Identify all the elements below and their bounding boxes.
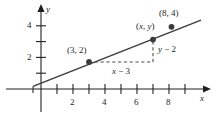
data-point-3-2 bbox=[86, 59, 92, 65]
x-axis-label: x bbox=[200, 94, 204, 103]
data-point-x-y bbox=[150, 37, 156, 43]
y-axis-label: y bbox=[46, 5, 50, 14]
data-point-8-4 bbox=[169, 24, 175, 30]
x-tick-label-8: 8 bbox=[166, 98, 171, 107]
x-tick-label-4: 4 bbox=[102, 98, 107, 107]
point-label-3-2: (3, 2) bbox=[67, 46, 87, 55]
y-tick-label-2: 2 bbox=[27, 53, 32, 62]
x-axis-arrow-icon bbox=[203, 85, 211, 92]
point-label-x-y: (x, y) bbox=[136, 22, 155, 31]
y-tick-label-4: 4 bbox=[27, 21, 32, 30]
x-tick-label-6: 6 bbox=[134, 98, 139, 107]
rise-segment-label-rest: − 2 bbox=[162, 44, 176, 54]
x-tick-label-2: 2 bbox=[70, 98, 75, 107]
point-label-x-y-close: ) bbox=[152, 21, 155, 31]
run-segment-label-rest: − 3 bbox=[116, 66, 130, 76]
y-axis-arrow-icon bbox=[37, 4, 44, 12]
point-label-8-4: (8, 4) bbox=[159, 9, 179, 18]
coordinate-plane-figure: y x 4 2 2 4 6 8 (3, 2) (x, y) (8, 4) x −… bbox=[0, 0, 216, 119]
rise-segment-label: y − 2 bbox=[158, 45, 176, 54]
run-segment-label: x − 3 bbox=[112, 67, 130, 76]
graph-canvas bbox=[0, 0, 216, 119]
